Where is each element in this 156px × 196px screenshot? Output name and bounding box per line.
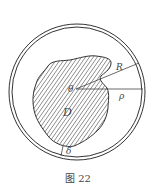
label-center: θ	[68, 85, 73, 94]
label-r: R	[116, 63, 123, 72]
circle-region-diagram	[0, 0, 156, 196]
label-rho: ρ	[119, 92, 124, 101]
delta-marker	[61, 146, 63, 156]
figure-caption: 图 22	[0, 170, 156, 185]
label-d: D	[63, 107, 72, 118]
label-delta: δ	[66, 147, 71, 156]
region-d	[33, 56, 111, 147]
